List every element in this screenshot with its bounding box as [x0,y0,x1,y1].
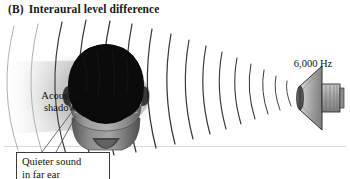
quieter-sound-callout: Quieter sound in far ear [16,152,110,179]
quieter-sound-callout-line2: in far ear [22,169,104,179]
loudspeaker [297,66,344,130]
panel-letter: (B) [8,3,24,15]
figure-panel-b: (B)Interaural level difference [0,0,350,179]
frequency-label: 6,000 Hz [282,58,344,69]
panel-title-text: Interaural level difference [29,3,160,15]
figure-title: (B)Interaural level difference [8,3,160,15]
quieter-sound-callout-line1: Quieter sound [22,156,104,169]
acoustic-shadow-label-line1: Acoustic [26,90,94,102]
acoustic-shadow-label: Acoustic shadow [26,90,94,115]
acoustic-shadow-label-line2: shadow [26,102,94,114]
